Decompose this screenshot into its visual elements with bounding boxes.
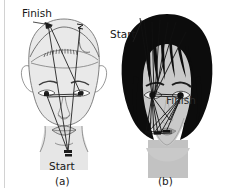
caption-a: (a) xyxy=(55,175,70,187)
label-a-start: Start xyxy=(49,160,75,172)
fixation-marker-a-right-eye xyxy=(78,92,83,96)
fixation-marker-b-chin-3 xyxy=(163,130,170,133)
fixation-marker-b-chin-2 xyxy=(154,132,161,135)
figure-container: Finish Start (a) xyxy=(0,0,228,188)
fixation-marker-b-chin-1 xyxy=(145,131,152,134)
fixation-marker-b-left-eye xyxy=(149,92,155,98)
label-b-start: Start xyxy=(110,28,136,40)
label-a-finish: Finish xyxy=(22,7,52,19)
fixation-marker-a-start-2 xyxy=(65,154,72,157)
fixation-marker-a-start-1 xyxy=(64,150,72,153)
caption-b: (b) xyxy=(158,175,173,187)
fixation-marker-a-left-eye xyxy=(44,93,49,97)
face-a-head-outline xyxy=(29,19,100,126)
scanpath-figure: Finish Start (a) xyxy=(0,0,228,188)
label-b-finish: Finish xyxy=(166,94,196,106)
